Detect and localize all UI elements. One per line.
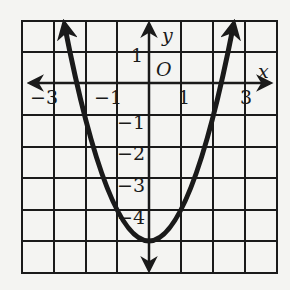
x-tick-label-1: 1 [178, 86, 190, 108]
y-tick-label-neg2: −2 [117, 142, 145, 164]
origin-label: O [156, 58, 172, 80]
x-tick-label-3: 3 [240, 86, 252, 108]
y-axis-label: y [161, 24, 173, 46]
parabola-graph: y x O −3 −1 1 3 1 −1 −2 −3 −4 [0, 0, 290, 290]
x-tick-label-neg3: −3 [30, 86, 58, 108]
x-tick-label-neg1: −1 [94, 86, 122, 108]
y-tick-label-1: 1 [131, 44, 143, 66]
y-tick-label-neg1: −1 [117, 111, 145, 133]
x-axis-label: x [258, 60, 269, 82]
y-tick-label-neg4: −4 [117, 206, 145, 228]
y-tick-label-neg3: −3 [117, 174, 145, 196]
